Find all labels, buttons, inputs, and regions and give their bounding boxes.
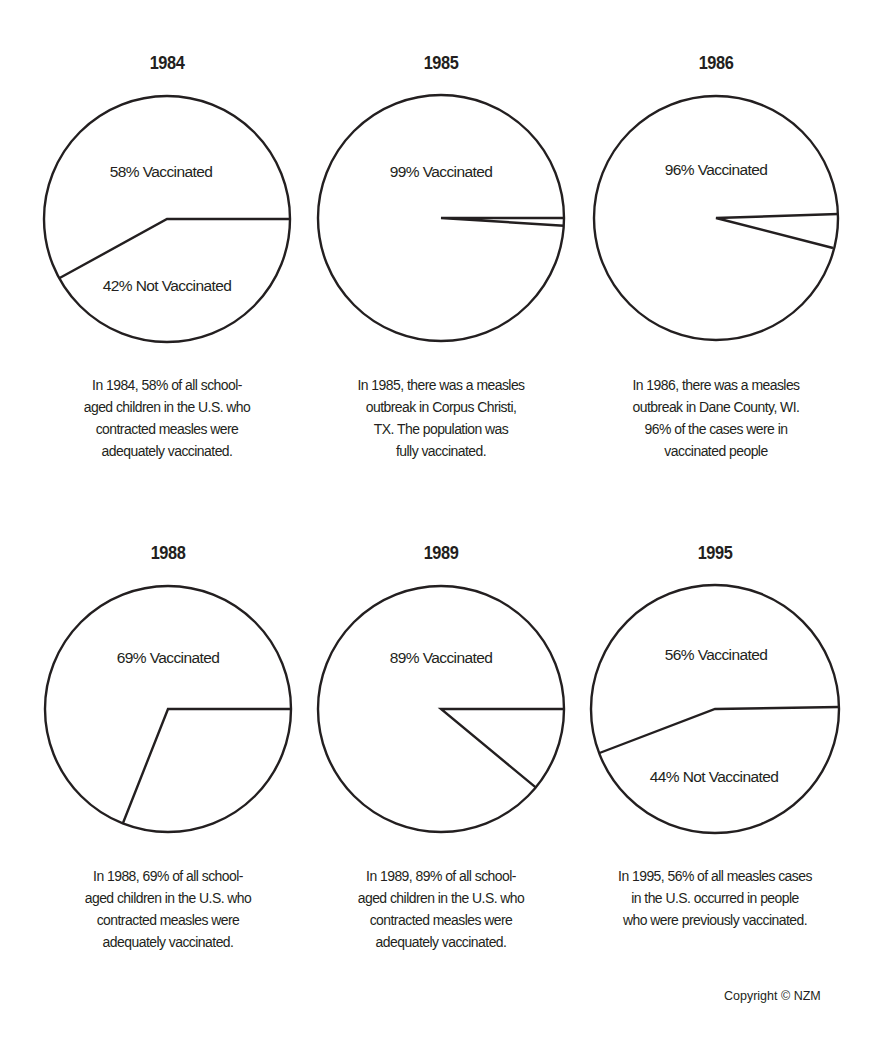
vaccinated-label: 99% Vaccinated xyxy=(390,163,492,180)
panel-title: 1995 xyxy=(595,542,836,564)
panel-1985: 1985 99% Vaccinated In 1985, there was a… xyxy=(301,0,581,480)
vaccinated-label: 58% Vaccinated xyxy=(110,163,212,180)
pie-chart-1995: 56% Vaccinated 44% Not Vaccinated xyxy=(575,570,855,850)
vaccinated-label: 69% Vaccinated xyxy=(117,649,219,666)
panel-title: 1985 xyxy=(321,52,562,74)
panel-caption: In 1986, there was a measles outbreak in… xyxy=(590,374,842,462)
panel-caption: In 1984, 58% of all school- aged childre… xyxy=(41,374,293,462)
panel-title: 1986 xyxy=(596,52,837,74)
panel-title: 1989 xyxy=(321,542,562,564)
panel-caption: In 1985, there was a measles outbreak in… xyxy=(315,374,567,462)
not-vaccinated-label: 42% Not Vaccinated xyxy=(103,277,232,294)
pie-chart-1985: 99% Vaccinated xyxy=(301,80,581,360)
pie-chart-1984: 58% Vaccinated 42% Not Vaccinated xyxy=(27,80,307,360)
pie-chart-1986: 96% Vaccinated xyxy=(576,80,856,360)
panel-1989: 1989 89% Vaccinated In 1989, 89% of all … xyxy=(301,490,581,980)
pie-chart-1988: 69% Vaccinated xyxy=(28,570,308,850)
panel-caption: In 1989, 89% of all school- aged childre… xyxy=(315,865,567,953)
not-vaccinated-label: 44% Not Vaccinated xyxy=(650,768,779,785)
panel-1988: 1988 69% Vaccinated In 1988, 69% of all … xyxy=(28,490,308,980)
panel-1995: 1995 56% Vaccinated 44% Not Vaccinated I… xyxy=(575,490,855,980)
panel-caption: In 1995, 56% of all measles cases in the… xyxy=(589,865,841,931)
panel-title: 1984 xyxy=(47,52,288,74)
panel-1986: 1986 96% Vaccinated In 1986, there was a… xyxy=(576,0,856,480)
vaccinated-label: 89% Vaccinated xyxy=(390,649,492,666)
copyright-notice: Copyright © NZM xyxy=(724,989,821,1003)
panel-title: 1988 xyxy=(48,542,289,564)
pie-chart-1989: 89% Vaccinated xyxy=(301,570,581,850)
vaccinated-label: 96% Vaccinated xyxy=(665,161,767,178)
panel-1984: 1984 58% Vaccinated 42% Not Vaccinated I… xyxy=(27,0,307,480)
panel-caption: In 1988, 69% of all school- aged childre… xyxy=(42,865,294,953)
vaccinated-label: 56% Vaccinated xyxy=(665,646,767,663)
